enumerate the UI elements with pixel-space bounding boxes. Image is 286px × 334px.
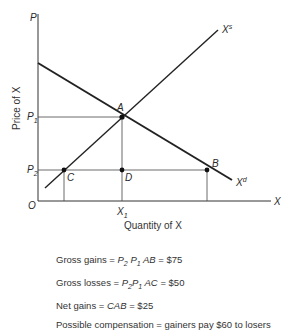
gross-losses-line: Gross losses = P2P1 AC = $50 [56,273,271,296]
point-a-label: A [116,102,124,113]
x1-label: X1 [116,206,128,219]
point-c-label: C [67,172,75,183]
gross-losses-area: P2P1 AC [122,277,158,288]
origin-label: O [28,200,36,211]
net-gains-label: Net gains = [56,300,104,311]
y-axis-title: Price of X [11,86,22,130]
demand-curve [38,63,232,180]
gross-losses-value: = $50 [160,277,184,288]
point-d-label: D [125,172,132,183]
compensation-line: Possible compensation = gainers pay $60 … [56,315,271,334]
summary-notes: Gross gains = P2 P1 AB = $75 Gross losse… [56,250,271,334]
point-b-marker [205,168,210,173]
x-axis-title: Quantity of X [124,220,182,231]
gross-losses-label: Gross losses = [56,277,119,288]
net-gains-value: = $25 [129,300,153,311]
supply-demand-diagram: A B C D P X O Xs Xd P1 P2 X1 Price of X … [0,0,286,245]
y-axis-symbol: P [30,12,37,23]
gross-gains-line: Gross gains = P2 P1 AB = $75 [56,250,271,273]
demand-label: Xd [235,176,248,188]
net-gains-area: CAB [107,300,127,311]
p2-label: P2 [27,164,38,177]
gross-gains-label: Gross gains = [56,254,115,265]
gross-gains-area: P2 P1 AB [118,254,156,265]
point-c-marker [62,168,67,173]
point-b-label: B [212,158,219,169]
supply-label: Xs [221,23,233,35]
x-axis-symbol: X [273,196,281,207]
point-a-marker [119,114,124,119]
p1-label: P1 [27,111,38,124]
gross-gains-value: = $75 [158,254,182,265]
supply-curve [45,30,218,188]
point-d-marker [120,168,125,173]
net-gains-line: Net gains = CAB = $25 [56,296,271,315]
